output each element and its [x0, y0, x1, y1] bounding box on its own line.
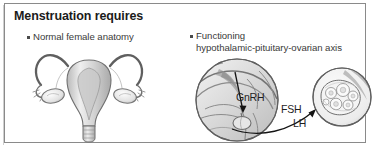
page-title: Menstruation requires: [14, 9, 143, 23]
square-bullet-icon: [190, 35, 193, 38]
uterus-ovaries-illustration: [21, 46, 157, 144]
hormone-arrows-overlay: [190, 57, 376, 147]
bullet-label-axis-line2: hypothalamic-pituitary-ovarian axis: [196, 42, 342, 54]
hormone-label-gnrh: GnRH: [236, 91, 264, 103]
bullet-label-axis-line1: Functioning: [196, 30, 245, 42]
bullet-item-anatomy: Normal female anatomy: [27, 31, 134, 43]
slide-frame: Menstruation requires Normal female anat…: [4, 3, 366, 143]
bullet-item-axis: Functioning hypothalamic-pituitary-ovari…: [190, 30, 342, 53]
hormone-label-fsh: FSH: [281, 103, 301, 115]
hormone-label-lh: LH: [293, 117, 306, 129]
square-bullet-icon: [27, 36, 30, 39]
bullet-label-anatomy: Normal female anatomy: [33, 31, 134, 43]
